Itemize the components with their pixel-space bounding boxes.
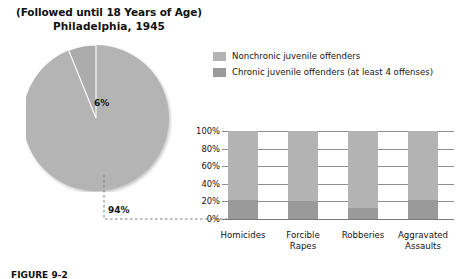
gridline-0 xyxy=(222,219,454,220)
ytick-label-80: 80% xyxy=(186,144,220,154)
bar-chart: 100% 80% 60% 40% 20% 0% xyxy=(186,124,458,274)
ytick-label-0: 0% xyxy=(186,214,220,224)
bar-chart-plot-area: 100% 80% 60% 40% 20% 0% xyxy=(222,131,454,219)
bar-segment-nonchronic xyxy=(348,131,378,208)
bar-segment-nonchronic xyxy=(288,131,318,201)
bar-segment-chronic xyxy=(408,200,438,219)
bar-segment-chronic xyxy=(348,208,378,219)
chart-title: (Followed until 18 Years of Age) Philade… xyxy=(4,5,214,33)
ytick-label-20: 20% xyxy=(186,196,220,206)
figure-caption: FIGURE 9-2 xyxy=(11,270,68,279)
bar-aggravated-assaults xyxy=(408,131,438,219)
bar-segment-nonchronic xyxy=(228,131,258,200)
pie-slices xyxy=(26,45,169,191)
figure-container: (Followed until 18 Years of Age) Philade… xyxy=(0,0,460,279)
bar-segment-chronic xyxy=(228,200,258,219)
xtick-label-aggravated-assaults: Aggravated Assaults xyxy=(385,230,460,251)
bar-robberies xyxy=(348,131,378,219)
pie-chart-svg xyxy=(26,44,172,192)
ytick-label-60: 60% xyxy=(186,161,220,171)
ytick-label-40: 40% xyxy=(186,179,220,189)
legend: Nonchronic juvenile offenders Chronic ju… xyxy=(213,50,457,82)
legend-item-nonchronic: Nonchronic juvenile offenders xyxy=(213,50,457,63)
bar-segment-nonchronic xyxy=(408,131,438,200)
title-line-1: (Followed until 18 Years of Age) xyxy=(4,5,214,19)
bar-forcible-rapes xyxy=(288,131,318,219)
pie-label-94-percent: 94% xyxy=(108,205,130,215)
xtick-line-1: Aggravated xyxy=(385,230,460,241)
legend-swatch-chronic-icon xyxy=(213,68,226,77)
pie-label-6-percent: 6% xyxy=(94,98,109,108)
xtick-line-2: Rapes xyxy=(265,241,341,252)
legend-label-chronic: Chronic juvenile offenders (at least 4 o… xyxy=(232,68,433,77)
xtick-line-2: Assaults xyxy=(385,241,460,252)
pie-chart: 6% 94% xyxy=(26,44,172,192)
legend-item-chronic: Chronic juvenile offenders (at least 4 o… xyxy=(213,66,457,79)
legend-swatch-nonchronic-icon xyxy=(213,52,226,61)
pie-slice-nonchronic xyxy=(26,45,169,191)
ytick-label-100: 100% xyxy=(186,126,220,136)
bar-homicides xyxy=(228,131,258,219)
bar-segment-chronic xyxy=(288,201,318,219)
legend-label-nonchronic: Nonchronic juvenile offenders xyxy=(232,52,360,61)
title-line-2: Philadelphia, 1945 xyxy=(4,19,214,33)
